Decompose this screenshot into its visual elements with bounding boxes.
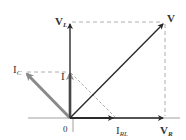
label-i: I [61, 70, 65, 82]
phasor-diagram: VL V VR IRL IC I 0 [0, 0, 186, 140]
label-ic: IC [13, 63, 22, 77]
label-origin: 0 [63, 124, 68, 134]
label-irl: IRL [116, 124, 128, 138]
label-vr: VR [160, 124, 173, 138]
vector-v [70, 24, 163, 118]
label-v: V [167, 12, 175, 24]
label-vl: VL [55, 15, 67, 29]
